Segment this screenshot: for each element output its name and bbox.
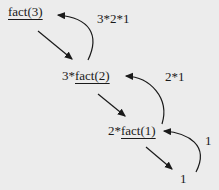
call-arrow-1-to-base — [146, 147, 172, 169]
base-case-value: 1 — [180, 172, 187, 186]
call-fact-1: fact(1) — [121, 123, 156, 138]
multiplier-2: 2* — [108, 123, 121, 138]
call-arrow-2-to-1 — [98, 94, 125, 116]
return-arrow-1-to-2 — [126, 76, 164, 124]
multiplier-3: 3* — [62, 68, 75, 83]
return-value-2: 2*1 — [165, 70, 185, 84]
return-arrow-base-to-1 — [164, 131, 200, 172]
call-fact-3: fact(3) — [8, 4, 43, 19]
return-value-3: 3*2*1 — [97, 12, 130, 26]
node-fact-1: 2*fact(1) — [108, 124, 156, 138]
node-fact-2: 3*fact(2) — [62, 69, 110, 83]
node-fact-3: fact(3) — [8, 5, 43, 19]
arrows — [0, 0, 219, 190]
return-arrow-2-to-3 — [58, 15, 93, 60]
call-arrow-3-to-2 — [38, 31, 72, 59]
return-value-1: 1 — [205, 134, 212, 148]
call-fact-2: fact(2) — [75, 68, 110, 83]
